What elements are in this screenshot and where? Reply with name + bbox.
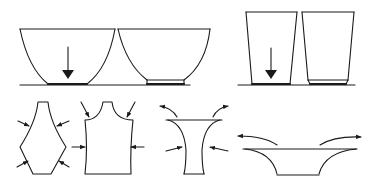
curved-arrow-icon xyxy=(213,106,228,117)
arrow-icon xyxy=(18,121,29,126)
pattern-flared-neck xyxy=(160,106,228,174)
curved-arrow-icon xyxy=(160,106,177,117)
cup-no-foot xyxy=(246,12,297,84)
cup-with-foot xyxy=(302,12,354,84)
diagram-canvas xyxy=(0,0,380,186)
arrow-icon xyxy=(57,121,69,126)
pattern-wide-dish xyxy=(238,136,361,175)
arrow-icon xyxy=(81,102,89,117)
bowl-no-foot xyxy=(20,29,115,84)
curved-arrow-icon xyxy=(320,137,361,145)
arrow-icon xyxy=(59,161,69,167)
arrow-icon xyxy=(17,161,28,167)
arrow-icon xyxy=(166,147,182,151)
pattern-vest xyxy=(72,102,144,174)
pottery-forms-diagram xyxy=(0,0,380,186)
pattern-diamond xyxy=(17,102,69,174)
arrow-icon xyxy=(127,102,135,117)
bowl-with-foot xyxy=(118,29,210,84)
arrow-icon xyxy=(210,147,228,151)
curved-arrow-icon xyxy=(238,136,277,145)
